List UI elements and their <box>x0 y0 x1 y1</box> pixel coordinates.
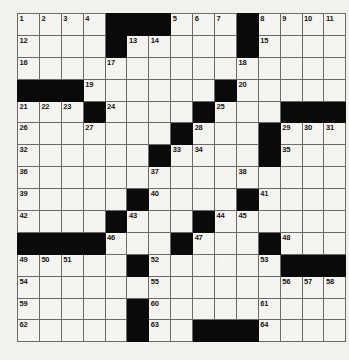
crossword-cell[interactable] <box>39 167 61 189</box>
crossword-cell[interactable] <box>149 79 171 101</box>
crossword-cell[interactable]: 44 <box>215 211 237 233</box>
crossword-cell[interactable] <box>193 35 215 57</box>
crossword-cell[interactable] <box>171 276 193 298</box>
crossword-cell[interactable] <box>149 123 171 145</box>
crossword-cell[interactable]: 49 <box>18 254 40 276</box>
crossword-cell[interactable] <box>171 79 193 101</box>
crossword-cell[interactable]: 36 <box>18 167 40 189</box>
crossword-cell[interactable] <box>280 167 302 189</box>
crossword-cell[interactable]: 25 <box>215 101 237 123</box>
crossword-cell[interactable]: 29 <box>280 123 302 145</box>
crossword-cell[interactable] <box>236 101 258 123</box>
crossword-cell[interactable] <box>280 57 302 79</box>
crossword-cell[interactable] <box>302 145 324 167</box>
crossword-cell[interactable] <box>105 79 127 101</box>
crossword-cell[interactable] <box>61 35 83 57</box>
crossword-cell[interactable] <box>302 167 324 189</box>
crossword-cell[interactable] <box>149 232 171 254</box>
crossword-cell[interactable]: 32 <box>18 145 40 167</box>
crossword-cell[interactable]: 39 <box>18 189 40 211</box>
crossword-cell[interactable] <box>83 320 105 342</box>
crossword-cell[interactable] <box>258 276 280 298</box>
crossword-cell[interactable] <box>149 211 171 233</box>
crossword-cell[interactable] <box>83 35 105 57</box>
crossword-cell[interactable] <box>215 298 237 320</box>
crossword-cell[interactable] <box>215 232 237 254</box>
crossword-cell[interactable] <box>127 276 149 298</box>
crossword-cell[interactable] <box>61 167 83 189</box>
crossword-cell[interactable] <box>39 276 61 298</box>
crossword-cell[interactable]: 54 <box>18 276 40 298</box>
crossword-cell[interactable]: 61 <box>258 298 280 320</box>
crossword-cell[interactable]: 5 <box>171 14 193 36</box>
crossword-cell[interactable]: 60 <box>149 298 171 320</box>
crossword-cell[interactable] <box>215 167 237 189</box>
crossword-cell[interactable]: 52 <box>149 254 171 276</box>
crossword-cell[interactable]: 33 <box>171 145 193 167</box>
crossword-cell[interactable] <box>127 101 149 123</box>
crossword-cell[interactable] <box>171 298 193 320</box>
crossword-cell[interactable]: 12 <box>18 35 40 57</box>
crossword-cell[interactable] <box>127 57 149 79</box>
crossword-cell[interactable] <box>39 145 61 167</box>
crossword-cell[interactable] <box>105 320 127 342</box>
crossword-cell[interactable] <box>171 101 193 123</box>
crossword-cell[interactable] <box>39 211 61 233</box>
crossword-cell[interactable] <box>83 211 105 233</box>
crossword-cell[interactable] <box>324 298 346 320</box>
crossword-cell[interactable]: 4 <box>83 14 105 36</box>
crossword-cell[interactable] <box>302 320 324 342</box>
crossword-cell[interactable]: 42 <box>18 211 40 233</box>
crossword-cell[interactable] <box>324 211 346 233</box>
crossword-cell[interactable] <box>236 145 258 167</box>
crossword-cell[interactable] <box>324 167 346 189</box>
crossword-cell[interactable] <box>215 57 237 79</box>
crossword-cell[interactable] <box>215 276 237 298</box>
crossword-cell[interactable] <box>61 298 83 320</box>
crossword-cell[interactable] <box>258 101 280 123</box>
crossword-cell[interactable] <box>193 57 215 79</box>
crossword-cell[interactable] <box>105 189 127 211</box>
crossword-cell[interactable]: 18 <box>236 57 258 79</box>
crossword-cell[interactable] <box>39 123 61 145</box>
crossword-cell[interactable]: 47 <box>193 232 215 254</box>
crossword-cell[interactable] <box>324 35 346 57</box>
crossword-cell[interactable] <box>105 167 127 189</box>
crossword-cell[interactable]: 16 <box>18 57 40 79</box>
crossword-cell[interactable] <box>193 276 215 298</box>
crossword-cell[interactable]: 30 <box>302 123 324 145</box>
crossword-cell[interactable]: 59 <box>18 298 40 320</box>
crossword-cell[interactable] <box>39 57 61 79</box>
crossword-cell[interactable] <box>324 232 346 254</box>
crossword-cell[interactable] <box>39 189 61 211</box>
crossword-cell[interactable] <box>83 189 105 211</box>
crossword-cell[interactable] <box>61 276 83 298</box>
crossword-cell[interactable] <box>127 167 149 189</box>
crossword-cell[interactable] <box>324 57 346 79</box>
crossword-cell[interactable] <box>127 79 149 101</box>
crossword-cell[interactable]: 10 <box>302 14 324 36</box>
crossword-cell[interactable] <box>149 101 171 123</box>
crossword-cell[interactable] <box>171 211 193 233</box>
crossword-cell[interactable] <box>324 79 346 101</box>
crossword-cell[interactable]: 1 <box>18 14 40 36</box>
crossword-cell[interactable] <box>105 145 127 167</box>
crossword-cell[interactable] <box>171 35 193 57</box>
crossword-cell[interactable] <box>83 57 105 79</box>
crossword-cell[interactable] <box>105 276 127 298</box>
crossword-cell[interactable] <box>127 232 149 254</box>
crossword-cell[interactable] <box>258 211 280 233</box>
crossword-cell[interactable] <box>83 298 105 320</box>
crossword-cell[interactable] <box>302 211 324 233</box>
crossword-cell[interactable] <box>302 232 324 254</box>
crossword-cell[interactable] <box>83 254 105 276</box>
crossword-cell[interactable] <box>171 189 193 211</box>
crossword-cell[interactable] <box>61 320 83 342</box>
crossword-cell[interactable]: 11 <box>324 14 346 36</box>
crossword-cell[interactable]: 50 <box>39 254 61 276</box>
crossword-cell[interactable]: 8 <box>258 14 280 36</box>
crossword-cell[interactable]: 20 <box>236 79 258 101</box>
crossword-cell[interactable] <box>258 57 280 79</box>
crossword-cell[interactable] <box>258 167 280 189</box>
crossword-cell[interactable] <box>83 145 105 167</box>
